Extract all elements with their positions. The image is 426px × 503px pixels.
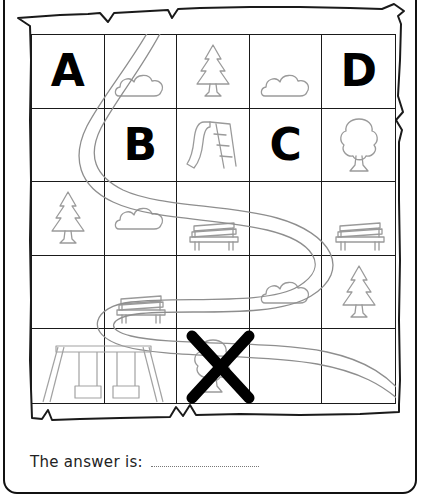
bench-icon [332, 217, 386, 251]
grid-cell-r2c5[interactable] [322, 109, 395, 183]
grid-cell-r5c2[interactable] [105, 329, 178, 403]
park-map-grid: ADBC [31, 34, 396, 404]
grid-cell-r1c1[interactable]: A [32, 35, 105, 109]
cloud-icon [259, 277, 313, 307]
bench-icon [186, 217, 240, 251]
grid-cell-r5c3[interactable] [177, 329, 250, 403]
grid-cell-content [32, 109, 104, 182]
grid-cell-content [322, 329, 395, 403]
grid-cell-r5c5[interactable] [322, 329, 395, 403]
grid-cell-r4c2[interactable] [105, 256, 178, 330]
grid-cell-content [105, 182, 177, 255]
grid-cell-content [105, 256, 177, 329]
grid-cell-content [177, 256, 249, 329]
pine-tree-icon [192, 42, 234, 100]
grid-cell-r4c4[interactable] [250, 256, 323, 330]
grid-cell-content [32, 256, 104, 329]
grid-cell-r3c2[interactable] [105, 182, 178, 256]
answer-prompt-label: The answer is: [30, 453, 143, 471]
grid-cell-r3c1[interactable] [32, 182, 105, 256]
grid-cell-r3c5[interactable] [322, 182, 395, 256]
grid-cell-content [322, 256, 395, 329]
grid-cell-r2c2[interactable]: B [105, 109, 178, 183]
grid-cell-content [250, 182, 322, 255]
tree-icon [335, 116, 383, 174]
bench-icon [113, 290, 167, 324]
grid-letter-d: D [340, 49, 377, 93]
grid-cell-content [32, 329, 104, 403]
grid-cell-r3c3[interactable] [177, 182, 250, 256]
cloud-icon [113, 70, 167, 100]
grid-cell-content: C [250, 109, 322, 182]
grid-cell-content: A [32, 35, 104, 108]
slide-icon [184, 116, 242, 174]
grid-cell-content [177, 109, 249, 182]
grid-cell-r1c4[interactable] [250, 35, 323, 109]
worksheet-page: ADBC The a [0, 0, 426, 503]
answer-row: The answer is: [30, 452, 370, 478]
grid-cell-content: D [322, 35, 395, 108]
cloud-icon [113, 203, 167, 233]
grid-cell-r1c5[interactable]: D [322, 35, 395, 109]
grid-cell-content [177, 35, 249, 108]
grid-cell-r3c4[interactable] [250, 182, 323, 256]
grid-cell-content [105, 35, 177, 108]
grid-cell-r2c3[interactable] [177, 109, 250, 183]
grid-cell-r4c5[interactable] [322, 256, 395, 330]
grid-cell-r2c4[interactable]: C [250, 109, 323, 183]
cloud-icon [259, 70, 313, 100]
grid-cell-content [250, 35, 322, 108]
pine-tree-icon [47, 189, 89, 247]
grid-cell-r5c1[interactable] [32, 329, 105, 403]
grid-cell-r2c1[interactable] [32, 109, 105, 183]
tree-crossed-out-icon [189, 337, 237, 395]
grid-cell-r4c1[interactable] [32, 256, 105, 330]
grid-cell-content: B [105, 109, 177, 182]
grid-cell-content [250, 256, 322, 329]
grid-cell-content [32, 182, 104, 255]
grid-cell-r1c2[interactable] [105, 35, 178, 109]
grid-cell-content [250, 329, 322, 403]
grid-cell-r1c3[interactable] [177, 35, 250, 109]
grid-cell-r4c3[interactable] [177, 256, 250, 330]
grid-cell-content [322, 182, 395, 255]
answer-blank-field[interactable] [151, 452, 259, 467]
grid-cell-content [322, 109, 395, 182]
grid-cell-r5c4[interactable] [250, 329, 323, 403]
grid-letter-c: C [269, 123, 301, 167]
pine-tree-icon [338, 263, 380, 321]
grid-cell-content [177, 329, 249, 403]
grid-cell-content [177, 182, 249, 255]
grid-letter-a: A [51, 49, 85, 93]
grid-cell-content [105, 329, 177, 403]
grid-letter-b: B [124, 123, 158, 167]
